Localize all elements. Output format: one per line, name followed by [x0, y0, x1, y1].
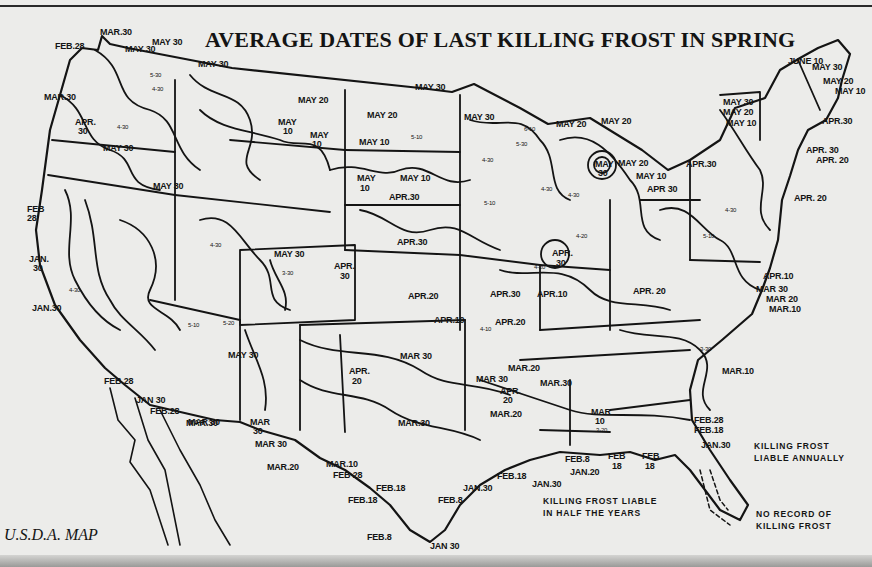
frost-date-label: MAR 30: [255, 440, 287, 449]
frost-date-label: MAY 30: [274, 250, 304, 259]
frost-date-small-label: 4-30: [210, 242, 221, 248]
frost-date-label: 30: [253, 427, 263, 436]
frost-date-label: APR.30: [822, 117, 852, 126]
frost-date-label: MAY 30: [103, 144, 133, 153]
frost-date-small-label: 5-10: [484, 200, 495, 206]
frost-date-label: JAN.30: [701, 441, 730, 450]
frost-date-label: MAR.30: [398, 419, 430, 428]
frost-date-label: FEB.8: [438, 496, 463, 505]
legend-line: IN HALF THE YEARS: [543, 507, 657, 519]
frost-date-label: 10: [312, 140, 322, 149]
legend-line: NO RECORD OF: [756, 508, 832, 520]
frost-date-label: MAR 30: [400, 352, 432, 361]
frost-date-label: MAY 20: [298, 96, 328, 105]
frost-date-label: MAY 30: [198, 60, 228, 69]
frost-date-label: FEB 28: [333, 471, 362, 480]
legend-line: KILLING FROST: [756, 520, 832, 532]
frost-date-label: MAY 10: [726, 119, 756, 128]
frost-date-label: APR.10: [537, 290, 567, 299]
frost-date-small-label: 4-30: [69, 287, 80, 293]
frost-date-label: FEB: [608, 452, 625, 461]
frost-date-label: MAY 10: [359, 138, 389, 147]
frost-date-small-label: 3-30: [282, 270, 293, 276]
frost-date-label: 30: [556, 259, 566, 268]
frost-date-label: APR.30: [389, 193, 419, 202]
frost-date-small-label: 3-20: [596, 427, 607, 433]
frost-date-label: APR.: [334, 262, 355, 271]
frost-date-label: APR.20: [408, 292, 438, 301]
frost-date-label: FEB.8: [565, 455, 590, 464]
frost-date-label: 30: [340, 272, 350, 281]
frost-date-small-label: 5-30: [516, 141, 527, 147]
frost-date-label: MAY 30: [723, 98, 753, 107]
frost-date-label: MAY 30: [464, 113, 494, 122]
frost-date-label: JAN 30: [430, 542, 459, 551]
frost-date-label: JAN.30: [32, 304, 61, 313]
frost-date-label: MAR.20: [267, 463, 299, 472]
frost-date-label: APR.30: [686, 160, 716, 169]
frost-date-label: MAY 30: [152, 38, 182, 47]
frost-date-label: 10: [283, 127, 293, 136]
frost-date-label: APR. 20: [816, 156, 849, 165]
frost-date-small-label: 5-10: [411, 134, 422, 140]
frost-date-label: FEB.18: [348, 496, 377, 505]
frost-date-label: MAR 30: [476, 375, 508, 384]
frost-date-label: MAY 30: [812, 63, 842, 72]
frost-date-label: 18: [612, 462, 622, 471]
frost-date-label: MAY 20: [367, 111, 397, 120]
frost-date-label: MAR.30: [44, 93, 76, 102]
legend-frost-annual: KILLING FROST LIABLE ANNUALLY: [754, 440, 845, 464]
frost-date-label: FEB.28: [150, 407, 179, 416]
frost-date-small-label: 4-30: [117, 124, 128, 130]
frost-date-small-label: 4-30: [482, 157, 493, 163]
frost-date-label: MAY 10: [835, 87, 865, 96]
frost-date-label: APR.: [349, 367, 370, 376]
frost-date-label: 20: [352, 377, 362, 386]
frost-annual-line: [710, 470, 728, 510]
frost-date-label: 18: [645, 462, 655, 471]
frost-date-small-label: 4-30: [725, 207, 736, 213]
frost-date-label: MAR 20: [766, 295, 798, 304]
frost-date-small-label: 4-30: [152, 86, 163, 92]
frost-date-label: MAY 20: [823, 77, 853, 86]
frost-date-small-label: 4-20: [576, 233, 587, 239]
frost-date-label: MAR.30: [540, 379, 572, 388]
frost-date-label: MAY 30: [125, 45, 155, 54]
frost-date-label: FEB.28: [55, 42, 84, 51]
frost-date-label: FEB.28: [104, 377, 133, 386]
frost-date-label: JAN.20: [570, 468, 599, 477]
frost-date-label: MAR.20: [490, 410, 522, 419]
frost-date-label: FEB.18: [694, 426, 723, 435]
frost-date-label: MAY 10: [400, 174, 430, 183]
frost-date-label: MAR.20: [508, 364, 540, 373]
frost-date-label: FEB: [642, 452, 659, 461]
legend-line: LIABLE ANNUALLY: [754, 452, 845, 464]
frost-date-small-label: 4-20: [534, 264, 545, 270]
frost-date-label: JAN.30: [463, 484, 492, 493]
frost-date-label: MAR.10: [326, 460, 358, 469]
frost-date-label: MAY 30: [228, 351, 258, 360]
frost-date-small-label: 5-30: [150, 72, 161, 78]
legend-no-frost: NO RECORD OF KILLING FROST: [756, 508, 832, 532]
frost-date-label: FEB.28: [694, 416, 723, 425]
legend-frost-half-years: KILLING FROST LIABLE IN HALF THE YEARS: [543, 495, 657, 519]
frost-date-label: 30: [598, 169, 608, 178]
frost-date-small-label: 5-20: [223, 320, 234, 326]
frost-date-label: APR 30: [647, 185, 677, 194]
frost-date-label: APR.10: [763, 272, 793, 281]
frost-date-label: APR.20: [495, 318, 525, 327]
frost-date-label: MAR 30: [756, 285, 788, 294]
frost-date-label: MAY 20: [556, 120, 586, 129]
frost-date-small-label: 6-10: [524, 126, 535, 132]
frost-date-label: MAR.30: [100, 28, 132, 37]
frost-date-label: APR. 20: [794, 194, 827, 203]
frost-date-label: MAY 10: [636, 172, 666, 181]
legend-line: KILLING FROST LIABLE: [543, 495, 657, 507]
frost-date-label: MAR.10: [722, 367, 754, 376]
frost-date-label: JAN 30: [136, 396, 165, 405]
frost-date-label: FEB.18: [497, 472, 526, 481]
frost-date-label: 30: [33, 264, 43, 273]
frost-date-label: MAY 20: [601, 117, 631, 126]
frost-date-label: FEB.8: [367, 533, 392, 542]
frost-date-label: MAR.10: [769, 305, 801, 314]
